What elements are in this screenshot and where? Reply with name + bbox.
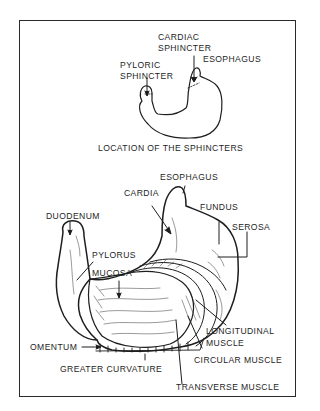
label-pyloric-sphincter-line2: SPHINCTER [120,71,173,81]
label-esophagus-top: ESOPHAGUS [203,54,261,64]
label-omentum: OMENTUM [30,342,77,352]
label-longitudinal-muscle-line2: MUSCLE [206,338,244,348]
label-fundus: FUNDUS [200,202,238,212]
label-longitudinal-muscle-line1: LONGITUDINAL [206,326,274,336]
label-greater-curvature: GREATER CURVATURE [60,364,162,374]
label-mucosa: MUCOSA [92,268,132,278]
label-pylorus: PYLORUS [92,250,136,260]
label-pyloric-sphincter-line1: PYLORIC [120,60,161,70]
label-circular-muscle: CIRCULAR MUSCLE [194,355,282,365]
label-transverse-muscle: TRANSVERSE MUSCLE [176,382,279,392]
caption-location-of-sphincters: LOCATION OF THE SPHINCTERS [98,143,243,153]
label-cardia: CARDIA [124,188,159,198]
label-cardiac-sphincter-line1: CARDIAC [158,32,199,42]
label-duodenum: DUODENUM [46,211,100,221]
label-serosa: SEROSA [232,222,270,232]
label-esophagus: ESOPHAGUS [160,172,218,182]
label-cardiac-sphincter-line2: SPHINCTER [158,43,211,53]
